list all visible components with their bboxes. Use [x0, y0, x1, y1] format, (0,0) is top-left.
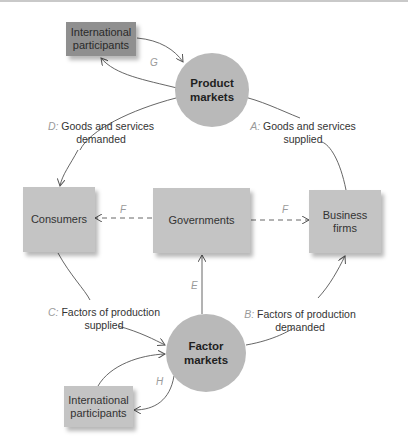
flow-label-b: B: Factors of production demanded — [240, 308, 360, 334]
node-label-line1: Product — [190, 76, 233, 90]
consumers-box: Consumers — [23, 187, 95, 252]
node-label-line1: Business — [323, 209, 368, 222]
node-label-line1: International — [68, 394, 129, 407]
flow-text-line2: supplied — [248, 133, 358, 146]
flow-text-line2: supplied — [44, 319, 164, 332]
node-label: Consumers — [31, 213, 87, 226]
flow-text-line2: demanded — [240, 321, 360, 334]
factor-markets-circle: Factor markets — [166, 314, 246, 392]
node-label-line2: participants — [70, 407, 126, 420]
node-label-line2: firms — [333, 222, 357, 235]
node-label: Governments — [168, 214, 234, 227]
flow-label-e: E — [191, 280, 198, 291]
flow-label-f-left: F — [120, 204, 126, 215]
international-participants-bottom-box: International participants — [64, 386, 133, 427]
flow-label-a: A: Goods and services supplied — [248, 120, 358, 146]
node-label-line2: markets — [184, 353, 228, 367]
flow-label-f-right: F — [282, 204, 288, 215]
flow-text-line1: Goods and services — [263, 120, 356, 132]
flow-text-line1: Factors of production — [61, 306, 160, 318]
flow-label-g: G — [150, 57, 158, 68]
flow-label-d: D: Goods and services demanded — [46, 120, 156, 146]
flow-key-b: B: — [244, 308, 254, 320]
governments-box: Governments — [153, 188, 250, 253]
flow-label-h: H — [156, 376, 163, 387]
flow-key-a: A: — [250, 120, 260, 132]
node-label-line2: participants — [73, 39, 129, 52]
flow-text-line1: Factors of production — [257, 308, 356, 320]
product-markets-circle: Product markets — [175, 53, 249, 127]
flow-key-d: D: — [48, 120, 59, 132]
flow-text-line1: Goods and services — [61, 120, 154, 132]
node-label-line2: markets — [190, 90, 234, 104]
business-firms-box: Business firms — [309, 190, 381, 253]
node-label-line1: Factor — [188, 339, 223, 353]
international-participants-top-box: International participants — [66, 22, 136, 56]
flow-text-line2: demanded — [46, 133, 156, 146]
flow-key-c: C: — [48, 306, 59, 318]
flow-label-c: C: Factors of production supplied — [44, 306, 164, 332]
node-label-line1: International — [71, 26, 132, 39]
